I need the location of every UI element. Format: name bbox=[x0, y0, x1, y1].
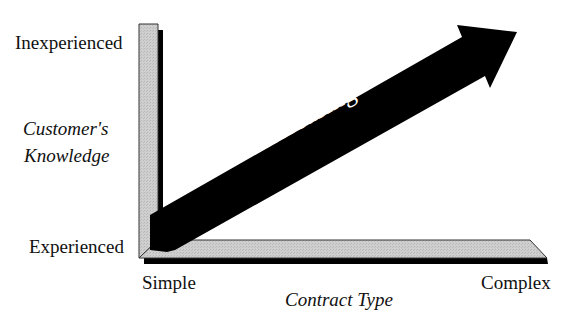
x-axis-title: Contract Type bbox=[285, 290, 393, 309]
x-axis-bar bbox=[139, 240, 547, 258]
increasing-arrow bbox=[150, 25, 517, 252]
x-axis-shadow bbox=[144, 258, 548, 264]
y-axis-top-label: Inexperienced bbox=[15, 33, 123, 52]
diagram-canvas: Inexperienced Customer's Knowledge Exper… bbox=[0, 0, 577, 326]
y-axis-title-line1: Customer's bbox=[23, 119, 108, 138]
y-axis-title-line2: Knowledge bbox=[24, 146, 110, 165]
x-axis-right-label: Complex bbox=[481, 273, 551, 292]
x-axis-left-label: Simple bbox=[142, 273, 196, 292]
y-axis-bottom-label: Experienced bbox=[29, 237, 124, 256]
